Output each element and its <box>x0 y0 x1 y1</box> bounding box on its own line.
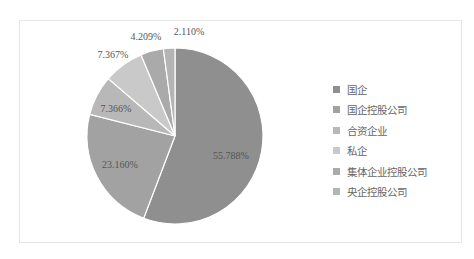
legend-item-guoqi: 国企 <box>333 79 427 100</box>
legend-item-hezi: 合资企业 <box>333 120 427 141</box>
slice-label: 4.209% <box>131 31 162 42</box>
slice-label: 55.788% <box>213 150 249 161</box>
legend-item-guoqi-konggu: 国企控股公司 <box>333 100 427 121</box>
slice-label: 7.367% <box>98 49 129 60</box>
slice-label: 23.160% <box>102 159 138 170</box>
legend-label: 集体企业控股公司 <box>347 164 427 179</box>
slice-label: 2.110% <box>174 26 204 37</box>
legend-label: 合资企业 <box>347 123 387 138</box>
legend-item-yangqi: 央企控股公司 <box>333 182 427 203</box>
legend-swatch-icon <box>333 106 340 113</box>
slice-label: 7.366% <box>101 103 132 114</box>
legend-swatch-icon <box>333 168 340 175</box>
legend-swatch-icon <box>333 188 340 195</box>
legend-label: 国企控股公司 <box>347 102 407 117</box>
legend-label: 央企控股公司 <box>347 184 407 199</box>
legend: 国企 国企控股公司 合资企业 私企 集体企业控股公司 央企控股公司 <box>333 79 427 202</box>
legend-swatch-icon <box>333 147 340 154</box>
legend-label: 国企 <box>347 82 367 97</box>
legend-item-jiti: 集体企业控股公司 <box>333 161 427 182</box>
legend-label: 私企 <box>347 143 367 158</box>
legend-item-siqi: 私企 <box>333 141 427 162</box>
pie-slices <box>87 48 263 224</box>
legend-swatch-icon <box>333 127 340 134</box>
legend-swatch-icon <box>333 86 340 93</box>
